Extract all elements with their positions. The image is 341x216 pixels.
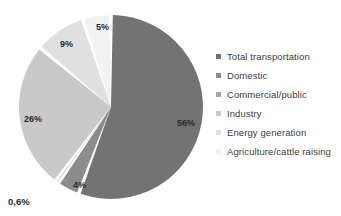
legend-swatch-icon [216, 130, 221, 135]
legend-item-label: Industry [227, 108, 262, 119]
legend-item-domestic[interactable]: Domestic [216, 66, 341, 85]
legend-item-label: Agriculture/cattle raising [227, 146, 331, 157]
pie-slice-value-label: 56% [177, 118, 195, 128]
pie-chart-figure: 56%4%26%9%5%0,6% Total transportation Do… [0, 0, 341, 216]
pie-slice-value-label-outside: 0,6% [8, 196, 30, 207]
pie-plot-area: 56%4%26%9%5%0,6% [0, 0, 215, 216]
pie-slices-group [19, 15, 203, 199]
legend-item-label: Domestic [227, 70, 267, 81]
pie-slice-value-label: 26% [24, 114, 42, 124]
pie-slice-value-label: 9% [60, 39, 73, 49]
legend-item-label: Energy generation [227, 127, 306, 138]
legend-item-energy-generation[interactable]: Energy generation [216, 123, 341, 142]
legend-swatch-icon [216, 111, 221, 116]
legend-item-total-transportation[interactable]: Total transportation [216, 47, 341, 66]
legend-swatch-icon [216, 54, 221, 59]
chart-legend: Total transportation Domestic Commercial… [216, 47, 341, 161]
pie-slice-value-label: 4% [73, 180, 86, 190]
legend-item-label: Total transportation [227, 51, 310, 62]
legend-item-label: Commercial/public [227, 89, 307, 100]
legend-swatch-icon [216, 73, 221, 78]
legend-item-agriculture-cattle-raising[interactable]: Agriculture/cattle raising [216, 142, 341, 161]
legend-item-commercial-public[interactable]: Commercial/public [216, 85, 341, 104]
legend-item-industry[interactable]: Industry [216, 104, 341, 123]
pie-svg: 56%4%26%9%5%0,6% [0, 0, 215, 216]
legend-swatch-icon [216, 149, 221, 154]
pie-slice-value-label: 5% [96, 22, 109, 32]
legend-swatch-icon [216, 92, 221, 97]
